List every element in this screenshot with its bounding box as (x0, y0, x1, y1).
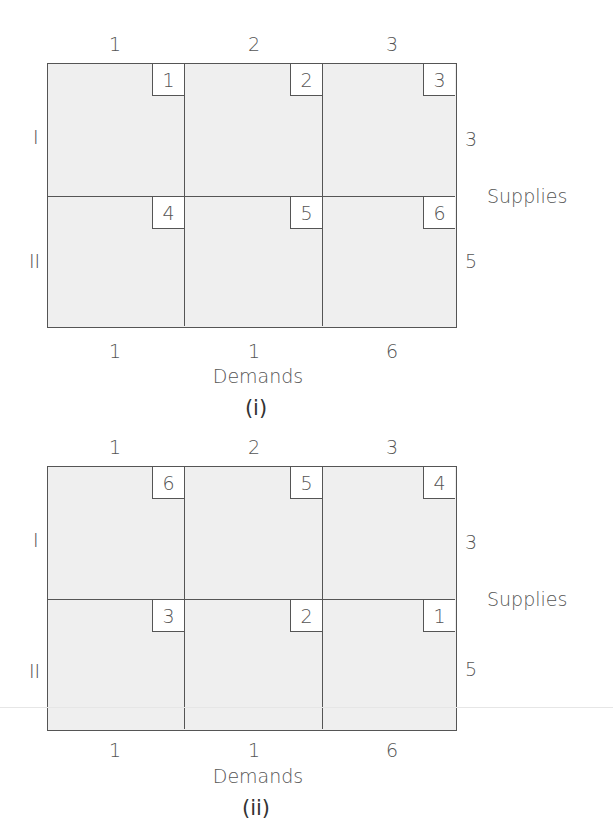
cell-I-1: 1 (48, 64, 185, 197)
cell-I-2: 5 (185, 467, 323, 600)
scan-line (0, 707, 613, 708)
column-label: 3 (386, 33, 398, 55)
supply-value: 5 (465, 658, 477, 680)
supplies-label: Supplies (487, 588, 567, 610)
cost-box: 6 (152, 467, 184, 499)
row-label: II (29, 250, 40, 272)
cost-grid: 1 2 3 4 5 6 (47, 63, 457, 328)
cost-box: 2 (290, 600, 322, 632)
row-label: I (33, 126, 39, 148)
cost-box: 3 (152, 600, 184, 632)
cell-II-3: 1 (323, 600, 455, 729)
demand-value: 6 (386, 340, 398, 362)
column-label: 2 (248, 33, 260, 55)
cell-I-2: 2 (185, 64, 323, 197)
row-label: I (33, 529, 39, 551)
supplies-label: Supplies (487, 185, 567, 207)
demand-value: 1 (248, 340, 260, 362)
demand-value: 1 (248, 739, 260, 761)
supply-value: 3 (465, 531, 477, 553)
cost-box: 3 (423, 64, 455, 96)
transportation-tableau-ii: 1 2 3 I II 6 5 4 3 2 1 3 Supplies 5 1 1 … (0, 403, 613, 813)
cost-box: 6 (423, 197, 455, 229)
cell-I-1: 6 (48, 467, 185, 600)
supply-value: 5 (465, 250, 477, 272)
cost-box: 4 (423, 467, 455, 499)
column-label: 1 (109, 33, 121, 55)
cell-I-3: 3 (323, 64, 455, 197)
cost-box: 1 (423, 600, 455, 632)
cell-II-3: 6 (323, 197, 455, 326)
cost-box: 1 (152, 64, 184, 96)
demands-label: Demands (213, 365, 303, 387)
cost-box: 5 (290, 197, 322, 229)
cell-II-2: 2 (185, 600, 323, 729)
cost-box: 2 (290, 64, 322, 96)
cost-box: 5 (290, 467, 322, 499)
supply-value: 3 (465, 128, 477, 150)
column-label: 1 (109, 436, 121, 458)
demand-value: 1 (109, 739, 121, 761)
row-label: II (29, 660, 40, 682)
demand-value: 6 (386, 739, 398, 761)
demand-value: 1 (109, 340, 121, 362)
cell-I-3: 4 (323, 467, 455, 600)
column-label: 2 (248, 436, 260, 458)
caption: (ii) (242, 796, 270, 820)
cost-grid: 6 5 4 3 2 1 (47, 466, 457, 731)
cell-II-1: 4 (48, 197, 185, 326)
demands-label: Demands (213, 765, 303, 787)
cell-II-2: 5 (185, 197, 323, 326)
column-label: 3 (386, 436, 398, 458)
cost-box: 4 (152, 197, 184, 229)
cell-II-1: 3 (48, 600, 185, 729)
transportation-tableau-i: 1 2 3 I II 1 2 3 4 5 6 3 Supplies 5 1 1 … (0, 0, 613, 410)
